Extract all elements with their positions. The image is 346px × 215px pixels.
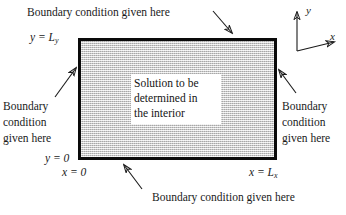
boundary-condition-diagram: Boundary condition given here y = Ly Bou… <box>0 0 346 215</box>
coordinate-axes-icon <box>297 12 334 51</box>
axis-label-x: x <box>330 30 335 42</box>
top-caption-arrow <box>213 11 232 33</box>
y-equals-zero-label: y = 0 <box>45 152 69 164</box>
interior-solution-label: Solution to be determined in the interio… <box>131 74 221 124</box>
left-boundary-caption-line-2: condition <box>3 115 46 130</box>
y-equals-Ly-text: y = L <box>30 31 55 43</box>
top-boundary-caption: Boundary condition given here <box>27 5 170 20</box>
bottom-boundary-caption: Boundary condition given here <box>152 190 295 205</box>
y-equals-Ly-subscript: y <box>55 36 59 45</box>
left-boundary-caption-line-1: Boundary <box>3 99 48 114</box>
interior-solution-line-2: determined in <box>134 91 218 106</box>
right-caption-arrow <box>279 70 296 93</box>
axis-label-y: y <box>306 4 311 16</box>
x-equals-zero-label: x = 0 <box>62 166 86 178</box>
x-equals-Lx-label: x = Lx <box>249 166 278 180</box>
y-equals-Ly-label: y = Ly <box>30 31 59 45</box>
right-boundary-caption-line-1: Boundary <box>282 99 327 114</box>
x-equals-Lx-text: x = L <box>249 166 274 178</box>
x-equals-Lx-subscript: x <box>274 171 278 180</box>
bottom-caption-arrow <box>124 165 142 189</box>
right-boundary-caption-line-3: given here <box>282 131 330 146</box>
left-caption-arrow <box>55 68 76 97</box>
left-boundary-caption-line-3: given here <box>3 131 51 146</box>
interior-solution-line-3: the interior <box>134 106 218 121</box>
interior-solution-line-1: Solution to be <box>134 76 218 91</box>
right-boundary-caption-line-2: condition <box>282 115 325 130</box>
